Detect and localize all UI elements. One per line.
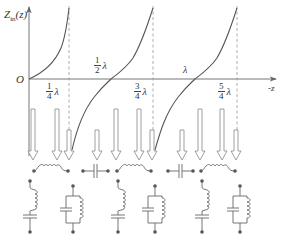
arrow-down-icon [64, 130, 74, 160]
parallel-lc-circuit-3 [227, 184, 250, 234]
arrow-down-icon [134, 109, 144, 160]
arrow-down-icon [177, 130, 187, 160]
marker-half-wavelength: 12 λ [94, 56, 107, 75]
arrow-down-icon [195, 109, 205, 160]
series-capacitor-1 [81, 164, 110, 178]
marker-one-wavelength: λ [183, 65, 187, 75]
y-axis-label-arg: (z) [16, 8, 28, 20]
arrow-down-icon [147, 130, 157, 160]
series-elements [32, 164, 237, 178]
series-inductor-1 [32, 165, 70, 173]
series-lc-circuit-1 [23, 179, 37, 234]
series-inductor-2 [115, 165, 153, 173]
arrow-down-icon [28, 109, 38, 160]
parallel-lc-circuit-1 [60, 184, 83, 234]
arrow-down-icon [111, 109, 121, 160]
impedance-diagram [0, 0, 286, 245]
y-axis-label: Zin(z) [4, 9, 27, 23]
series-inductor-3 [199, 165, 237, 173]
curve-branch-1 [29, 8, 69, 79]
arrow-down-icon [231, 130, 241, 160]
series-capacitor-2 [166, 164, 195, 178]
origin-label: O [16, 74, 24, 85]
parallel-lc-circuit-2 [142, 184, 165, 234]
arrows [28, 109, 241, 160]
arrow-down-icon [217, 109, 227, 160]
marker-five-quarter-wavelength: 54 λ [218, 82, 231, 101]
series-lc-circuit-2 [111, 179, 125, 234]
marker-quarter-wavelength: 14 λ [46, 82, 59, 101]
arrow-down-icon [92, 130, 102, 160]
series-lc-circuit-3 [195, 179, 209, 234]
arrow-down-icon [52, 109, 62, 160]
marker-three-quarter-wavelength: 34 λ [134, 82, 147, 101]
x-axis-label: -z [268, 84, 275, 93]
resonant-circuits [23, 179, 250, 234]
